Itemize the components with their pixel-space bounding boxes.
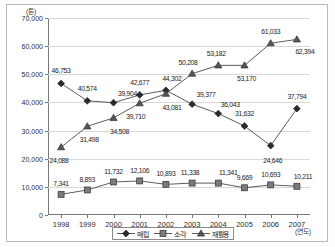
x-tick-mark xyxy=(192,215,193,218)
x-tick-label: 2007 xyxy=(289,220,306,229)
x-tick-mark xyxy=(218,215,219,218)
data-point-marker xyxy=(215,62,222,68)
data-point-marker xyxy=(215,110,222,117)
data-label: 31,498 xyxy=(80,136,99,143)
data-label: 37,794 xyxy=(287,92,306,99)
data-point-marker xyxy=(137,178,143,184)
data-label: 39,710 xyxy=(126,113,145,120)
y-tick-label: 10,000 xyxy=(22,183,43,190)
legend-item-1[interactable]: 소각 xyxy=(154,229,185,239)
chart-screenshot: (톤) (연도) 010,00020,00030,00040,00050,000… xyxy=(0,0,335,247)
data-label: 39,377 xyxy=(197,91,216,98)
data-point-marker xyxy=(136,91,143,98)
data-label: 62,394 xyxy=(295,48,314,55)
data-point-marker xyxy=(84,187,90,193)
x-tick-mark xyxy=(61,215,62,218)
data-label: 39,904 xyxy=(118,89,137,96)
data-label: 12,106 xyxy=(130,166,149,173)
data-point-marker xyxy=(293,36,300,42)
y-tick-mark xyxy=(45,215,48,216)
x-tick-label: 1998 xyxy=(53,220,70,229)
y-tick-label: 50,000 xyxy=(22,71,43,78)
data-label: 11,732 xyxy=(104,167,122,174)
data-label: 61,033 xyxy=(261,28,280,35)
x-tick-mark xyxy=(166,215,167,218)
y-tick-label: 70,000 xyxy=(22,15,43,22)
y-tick-label: 0 xyxy=(39,212,43,219)
series-line-1 xyxy=(61,181,297,194)
data-label: 42,677 xyxy=(130,78,149,85)
data-label: 11,338 xyxy=(181,169,199,176)
legend-item-0[interactable]: 매립 xyxy=(117,229,148,239)
data-point-marker xyxy=(58,144,65,150)
data-label: 53,170 xyxy=(237,75,256,82)
data-point-marker xyxy=(215,180,221,186)
legend-marker-square-icon xyxy=(154,229,172,238)
x-tick-mark xyxy=(114,215,115,218)
x-tick-mark xyxy=(245,215,246,218)
series-lines xyxy=(48,18,310,215)
data-point-marker xyxy=(110,99,117,106)
data-point-marker xyxy=(58,80,65,87)
x-tick-label: 2005 xyxy=(236,220,253,229)
x-tick-mark xyxy=(297,215,298,218)
data-label: 24,088 xyxy=(50,157,69,164)
legend-marker-diamond-icon xyxy=(117,229,135,238)
y-tick-label: 20,000 xyxy=(22,155,43,162)
data-label: 9,669 xyxy=(237,173,253,180)
chart-legend: 매립소각재활용 xyxy=(112,227,234,240)
data-label: 10,211 xyxy=(294,173,312,180)
data-point-marker xyxy=(58,191,64,197)
data-label: 24,646 xyxy=(263,156,282,163)
data-label: 7,341 xyxy=(53,180,69,187)
data-label: 36,043 xyxy=(221,100,240,107)
data-label: 11,341 xyxy=(219,169,237,176)
data-point-marker xyxy=(242,185,248,191)
data-point-marker xyxy=(84,97,91,104)
data-point-marker xyxy=(267,142,274,149)
data-label: 53,182 xyxy=(207,50,226,57)
data-label: 31,632 xyxy=(235,109,254,116)
data-label: 8,893 xyxy=(80,175,96,182)
legend-label: 재활용 xyxy=(212,229,229,239)
data-label: 40,574 xyxy=(78,84,97,91)
data-label: 43,081 xyxy=(162,103,181,110)
x-tick-mark xyxy=(271,215,272,218)
y-tick-label: 60,000 xyxy=(22,43,43,50)
data-point-marker xyxy=(189,101,196,108)
data-point-marker xyxy=(111,179,117,185)
data-point-marker xyxy=(163,181,169,187)
y-tick-label: 40,000 xyxy=(22,99,43,106)
plot-area: 010,00020,00030,00040,00050,00060,00070,… xyxy=(48,18,310,215)
data-label: 10,893 xyxy=(156,170,175,177)
data-point-marker xyxy=(294,105,301,112)
data-label: 46,753 xyxy=(52,67,71,74)
x-tick-mark xyxy=(140,215,141,218)
data-point-marker xyxy=(241,123,248,130)
x-tick-label: 1999 xyxy=(79,220,96,229)
data-point-marker xyxy=(294,183,300,189)
data-point-marker xyxy=(110,114,117,120)
x-tick-mark xyxy=(87,215,88,218)
legend-item-2[interactable]: 재활용 xyxy=(192,229,229,239)
y-tick-label: 30,000 xyxy=(22,127,43,134)
legend-marker-triangle-icon xyxy=(192,229,210,238)
data-label: 34,508 xyxy=(110,127,129,134)
data-point-marker xyxy=(268,182,274,188)
data-label: 10,693 xyxy=(261,170,280,177)
data-label: 44,302 xyxy=(162,75,181,82)
data-point-marker xyxy=(189,180,195,186)
series-line-2 xyxy=(61,39,297,147)
data-label: 50,208 xyxy=(179,58,198,65)
x-tick-label: 2006 xyxy=(262,220,279,229)
legend-label: 매립 xyxy=(137,229,148,239)
legend-label: 소각 xyxy=(174,229,185,239)
